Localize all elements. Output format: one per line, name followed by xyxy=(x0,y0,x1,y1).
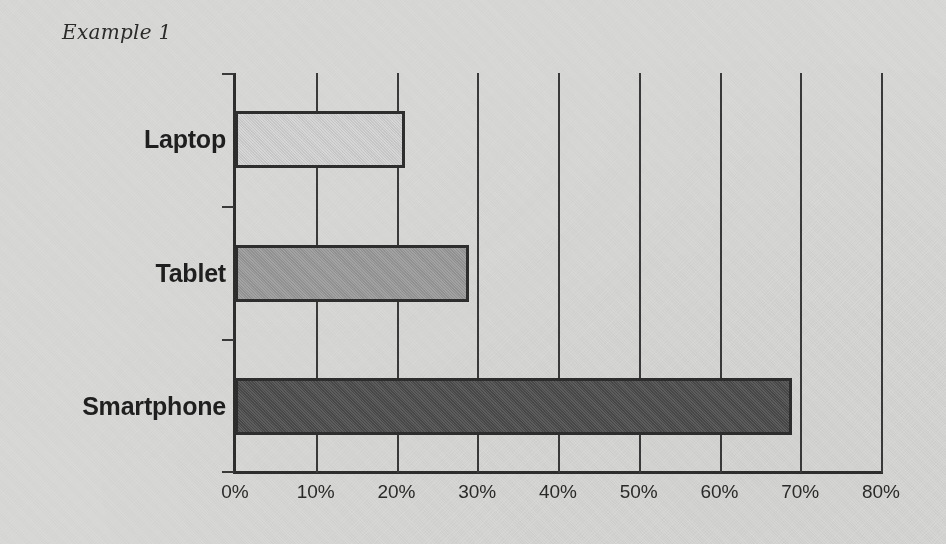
x-tick-label: 30% xyxy=(458,481,496,503)
category-label-tablet: Tablet xyxy=(155,261,226,286)
x-tick-label: 40% xyxy=(539,481,577,503)
x-tick-label: 80% xyxy=(862,481,900,503)
x-tick-label: 10% xyxy=(297,481,335,503)
category-label-laptop: Laptop xyxy=(144,127,226,152)
plot-area: LaptopTabletSmartphone xyxy=(235,73,881,473)
gridline-70pct xyxy=(800,73,802,473)
y-axis-tick xyxy=(222,206,234,208)
x-tick-label: 70% xyxy=(781,481,819,503)
y-axis-tick xyxy=(222,471,234,473)
bar-inner: Smartphone xyxy=(238,381,789,432)
bar-tablet: Tablet xyxy=(235,245,469,302)
x-tick-label: 60% xyxy=(700,481,738,503)
x-tick-label: 50% xyxy=(620,481,658,503)
chart-plot: LaptopTabletSmartphone 0%10%20%30%40%50%… xyxy=(0,0,946,544)
gridline-80pct xyxy=(881,73,883,473)
category-label-smartphone: Smartphone xyxy=(82,394,226,419)
bar-laptop: Laptop xyxy=(235,111,405,168)
y-axis-tick xyxy=(222,339,234,341)
bar-smartphone: Smartphone xyxy=(235,378,792,435)
y-axis-tick xyxy=(222,73,234,75)
bar-inner: Laptop xyxy=(238,114,402,165)
x-tick-label: 0% xyxy=(221,481,248,503)
bar-inner: Tablet xyxy=(238,248,466,299)
x-tick-label: 20% xyxy=(377,481,415,503)
